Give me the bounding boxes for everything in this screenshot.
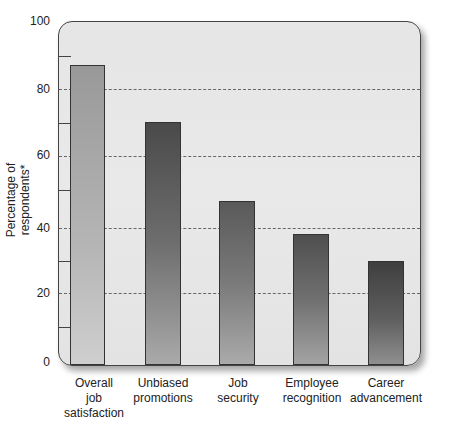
x-label-career-advancement: Career advancement	[341, 376, 431, 406]
bar-job-security	[219, 201, 255, 365]
minor-tick	[59, 56, 71, 57]
gridline-60	[59, 156, 420, 157]
bar-career-advancement	[368, 261, 404, 365]
gridline-80	[59, 89, 420, 90]
bar-employee-recognition	[293, 234, 329, 365]
plot-area	[58, 21, 421, 366]
y-tick-20: 20	[22, 286, 50, 300]
y-tick-40: 40	[22, 221, 50, 235]
bar-overall-job-satisfaction	[70, 65, 105, 365]
y-tick-80: 80	[22, 82, 50, 96]
y-tick-60: 60	[22, 148, 50, 162]
bar-unbiased-promotions	[145, 122, 181, 365]
y-tick-100: 100	[22, 14, 50, 28]
y-tick-0: 0	[22, 355, 50, 369]
